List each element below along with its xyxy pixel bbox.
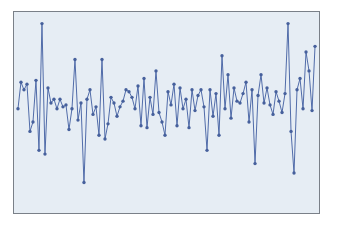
data-point — [166, 90, 169, 93]
data-point — [301, 107, 304, 110]
data-point — [91, 113, 94, 116]
data-point — [34, 79, 37, 82]
data-point — [232, 86, 235, 89]
data-point — [238, 101, 241, 104]
data-point — [55, 107, 58, 110]
data-point — [133, 107, 136, 110]
data-point — [217, 134, 220, 137]
data-point — [97, 134, 100, 137]
data-point — [283, 92, 286, 95]
data-point — [22, 88, 25, 91]
data-point — [265, 86, 268, 89]
data-point — [142, 77, 145, 80]
chart-page — [0, 0, 340, 225]
data-point — [94, 105, 97, 108]
data-point — [253, 162, 256, 165]
data-point — [190, 88, 193, 91]
data-point — [280, 111, 283, 114]
data-point — [271, 113, 274, 116]
data-point — [58, 98, 61, 101]
data-point — [82, 181, 85, 184]
data-point — [211, 115, 214, 118]
data-point — [109, 96, 112, 99]
data-point — [178, 86, 181, 89]
data-point — [139, 124, 142, 127]
data-point — [148, 96, 151, 99]
data-point — [112, 101, 115, 104]
data-point — [268, 103, 271, 106]
data-point — [172, 82, 175, 85]
data-point — [73, 58, 76, 61]
data-point — [103, 137, 106, 140]
data-point — [193, 109, 196, 112]
data-point — [25, 82, 28, 85]
data-point — [115, 115, 118, 118]
data-point — [205, 149, 208, 152]
data-point — [67, 128, 70, 131]
data-point — [136, 84, 139, 87]
data-point — [127, 90, 130, 93]
data-point — [307, 69, 310, 72]
data-point — [235, 99, 238, 102]
data-point — [313, 45, 316, 48]
data-point — [52, 98, 55, 101]
series-1-line — [18, 24, 315, 183]
data-point — [76, 118, 79, 121]
data-point — [28, 130, 31, 133]
data-point — [163, 134, 166, 137]
data-point — [130, 96, 133, 99]
data-point — [289, 130, 292, 133]
data-point — [64, 103, 67, 106]
data-point — [160, 120, 163, 123]
data-point — [286, 22, 289, 25]
data-point — [244, 81, 247, 84]
data-point — [304, 50, 307, 53]
data-point — [16, 107, 19, 110]
data-point — [79, 101, 82, 104]
line-chart-svg — [14, 12, 319, 213]
data-point — [121, 99, 124, 102]
data-point — [169, 103, 172, 106]
data-point — [124, 88, 127, 91]
data-point — [196, 94, 199, 97]
data-point — [61, 105, 64, 108]
data-point — [295, 88, 298, 91]
data-point — [310, 109, 313, 112]
data-point — [292, 171, 295, 174]
data-point — [100, 58, 103, 61]
data-point — [70, 107, 73, 110]
data-point — [37, 149, 40, 152]
data-point — [31, 120, 34, 123]
data-point — [199, 88, 202, 91]
data-point — [274, 90, 277, 93]
data-point — [151, 113, 154, 116]
data-point — [49, 101, 52, 104]
data-point — [226, 73, 229, 76]
data-point — [43, 152, 46, 155]
data-point — [157, 111, 160, 114]
data-point — [259, 73, 262, 76]
data-point — [154, 69, 157, 72]
data-point — [214, 92, 217, 95]
data-point — [145, 126, 148, 129]
data-point — [40, 22, 43, 25]
data-point — [106, 122, 109, 125]
data-point — [241, 92, 244, 95]
data-point — [298, 77, 301, 80]
data-point — [118, 105, 121, 108]
data-point — [250, 88, 253, 91]
data-point — [46, 86, 49, 89]
data-point — [247, 120, 250, 123]
data-point — [256, 94, 259, 97]
plot-area — [13, 11, 320, 214]
data-point — [184, 98, 187, 101]
data-point — [19, 81, 22, 84]
data-point — [208, 88, 211, 91]
data-point — [277, 99, 280, 102]
data-point — [85, 98, 88, 101]
data-point — [88, 88, 91, 91]
data-point — [220, 54, 223, 57]
data-point — [181, 107, 184, 110]
data-point — [223, 107, 226, 110]
data-point — [175, 124, 178, 127]
